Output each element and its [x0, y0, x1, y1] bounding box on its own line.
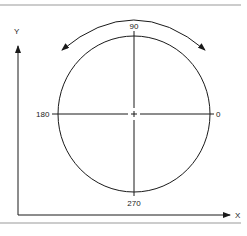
y-axis-label: Y — [14, 27, 20, 36]
angle-label-270: 270 — [127, 199, 141, 208]
angle-label-0: 0 — [216, 110, 221, 119]
diagram-canvas: Y X 90 180 0 270 — [0, 0, 247, 236]
angle-label-90: 90 — [130, 22, 139, 31]
angle-label-180: 180 — [36, 110, 50, 119]
x-axis-label: X — [235, 211, 241, 220]
